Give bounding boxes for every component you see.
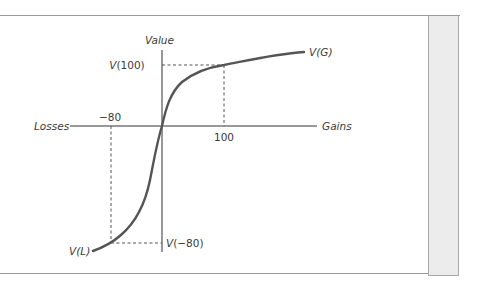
x100-tick-label: 100 [214,131,234,143]
value-function-diagram: Value V(100) Losses −80 100 Gains V(G) V… [0,0,484,289]
losses-label: Losses [34,120,70,132]
vminus80-label: V(−80) [166,237,204,249]
xminus80-tick-label: −80 [99,111,121,123]
gains-label: Gains [322,120,352,132]
v100-label: V(100) [109,59,144,71]
vg-label: V(G) [309,46,333,58]
v100-label-text: (100) [116,59,144,71]
y-axis-label: Value [145,34,174,46]
value-curve [93,52,304,251]
vl-label: V(L) [69,245,90,257]
